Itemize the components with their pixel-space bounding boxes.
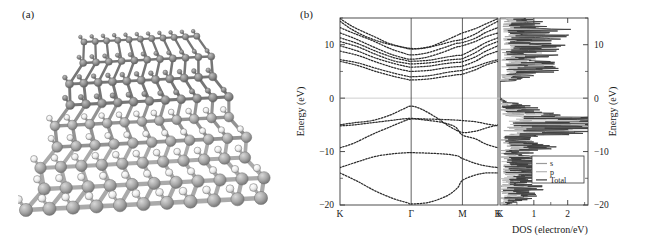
kpath-label: K (337, 209, 344, 219)
y-tick-label-right: −20 (594, 200, 609, 210)
y-tick-label-right: 10 (594, 40, 604, 50)
y-tick-label-right: −10 (594, 147, 609, 157)
band-curve (340, 19, 498, 49)
crystal-lattice-svg (18, 22, 273, 230)
y-axis-label-left: Energy (eV) (295, 87, 307, 137)
dos-x-tick-label: 1 (531, 209, 536, 219)
dos-x-axis-label: DOS (electron/eV) (512, 224, 588, 236)
y-tick-label-left: 10 (325, 40, 335, 50)
y-tick-label-right: 0 (594, 94, 599, 104)
band-curve (340, 153, 498, 168)
kpath-label: M (458, 209, 467, 219)
y-tick-label-left: −10 (319, 147, 334, 157)
panel-a-label: (a) (22, 8, 34, 20)
y-tick-label-left: 0 (329, 94, 334, 104)
plot-svg: 101000−10−10−20−20KΓMKK12Energy (eV)Ener… (282, 10, 652, 238)
band-curves (340, 19, 498, 204)
figure-root: (a) (0, 0, 655, 245)
dos-origin-label: K (497, 209, 504, 219)
band-curve (340, 21, 498, 49)
y-tick-label-left: −20 (319, 200, 334, 210)
dos-x-tick-label: 2 (565, 209, 570, 219)
dos-legend: spTotal (532, 156, 584, 185)
band-structure-dos-plot: 101000−10−10−20−20KΓMKK12Energy (eV)Ener… (282, 10, 652, 238)
crystal-structure-image (18, 22, 273, 230)
legend-label: Total (550, 176, 567, 185)
y-axis-label-right: Energy (eV) (607, 87, 619, 137)
band-curve (340, 173, 498, 204)
kpath-label: Γ (408, 209, 414, 219)
